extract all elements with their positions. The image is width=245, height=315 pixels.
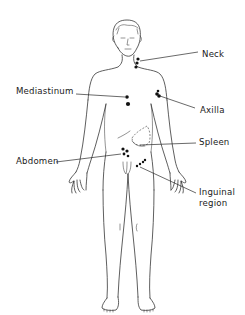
leader-axilla: [160, 96, 195, 108]
lymph-nodes: [121, 57, 160, 167]
node-inguinal-2: [139, 163, 141, 165]
node-mediastinum-2: [126, 102, 130, 106]
label-neck: Neck: [202, 50, 224, 60]
node-abdomen-1: [121, 147, 124, 150]
label-mediastinum: Mediastinum: [16, 87, 74, 97]
leader-abdomen: [56, 154, 121, 162]
node-neck-3: [134, 65, 137, 68]
legs: [102, 162, 155, 312]
node-axilla-3: [157, 90, 160, 93]
node-neck-1: [136, 57, 139, 60]
leader-lines: [56, 52, 198, 193]
node-abdomen-4: [127, 155, 130, 158]
label-inguinal-line1: Inguinal: [199, 188, 235, 198]
label-spleen: Spleen: [199, 138, 230, 148]
head: [113, 20, 142, 56]
node-abdomen-3: [123, 153, 126, 156]
node-neck-2: [135, 61, 138, 64]
spleen-outline: [132, 126, 150, 145]
leader-neck: [140, 52, 198, 61]
left-arm: [69, 100, 106, 193]
right-arm: [151, 100, 186, 193]
node-inguinal-1: [136, 165, 138, 167]
leader-spleen: [140, 143, 196, 145]
node-inguinal-4: [144, 159, 146, 161]
label-abdomen: Abdomen: [16, 157, 59, 167]
label-axilla: Axilla: [200, 106, 225, 116]
leader-inguinal: [140, 167, 196, 193]
leader-mediastinum: [76, 94, 125, 97]
node-inguinal-3: [142, 161, 144, 163]
node-abdomen-2: [125, 149, 128, 152]
node-mediastinum-1: [125, 95, 129, 99]
label-inguinal-line2: region: [199, 199, 227, 209]
